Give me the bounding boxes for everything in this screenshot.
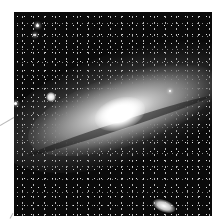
galaxy-photo	[14, 12, 212, 216]
pointer-line	[10, 213, 14, 219]
bright-star	[36, 24, 39, 27]
pointer-line	[0, 117, 14, 126]
bright-star	[34, 34, 36, 36]
bright-star	[169, 90, 171, 92]
satellite-galaxy-upper-left	[46, 92, 56, 102]
bright-star	[14, 102, 17, 105]
